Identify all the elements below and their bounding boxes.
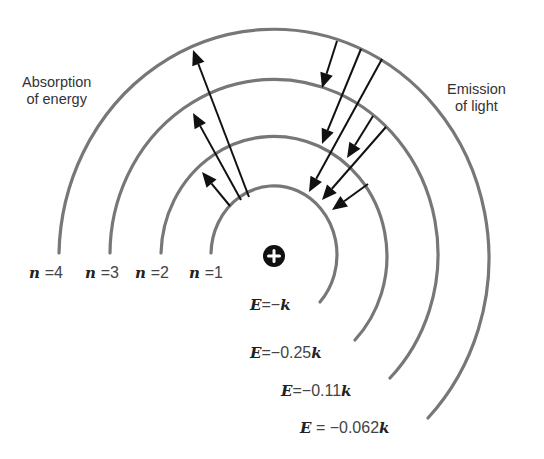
- absorption-label-line2: of energy: [22, 91, 91, 108]
- arrowhead-icon: [193, 113, 206, 129]
- orbit-n1: [211, 186, 337, 302]
- emission-arrow-2-to-1: [332, 184, 368, 210]
- orbit-n3: [110, 79, 438, 378]
- level-label-n4: n =4: [29, 264, 63, 282]
- transition-arrows: [192, 41, 386, 210]
- level-label-n2: n =2: [135, 264, 169, 282]
- emission-label-line1: Emission: [447, 81, 506, 98]
- energy-label-n3: E=−0.11k: [281, 382, 351, 400]
- emission-arrow-3-to-1: [322, 127, 386, 200]
- arrowhead-icon: [320, 72, 332, 88]
- absorption-arrow-1-to-2: [202, 172, 230, 206]
- bohr-diagram: [0, 0, 544, 459]
- emission-label: Emission of light: [447, 81, 506, 115]
- absorption-label-line1: Absorption: [22, 74, 91, 91]
- arrowhead-icon: [332, 196, 348, 210]
- emission-arrow-4-to-2: [322, 49, 361, 144]
- energy-label-n2: E=−0.25k: [250, 344, 322, 362]
- emission-arrow-3-to-2: [347, 116, 373, 158]
- arrowhead-icon: [202, 172, 217, 188]
- arrowhead-icon: [192, 50, 204, 66]
- energy-label-n4: E = −0.062k: [300, 419, 389, 437]
- emission-arrow-4-to-3: [320, 41, 337, 88]
- arrowhead-icon: [347, 142, 360, 158]
- absorption-label: Absorption of energy: [22, 74, 91, 108]
- level-label-n3: n =3: [85, 264, 119, 282]
- emission-label-line2: of light: [447, 98, 506, 115]
- level-label-n1: n =1: [189, 264, 223, 282]
- energy-label-n1: E=−k: [250, 296, 291, 314]
- nucleus: [263, 245, 285, 267]
